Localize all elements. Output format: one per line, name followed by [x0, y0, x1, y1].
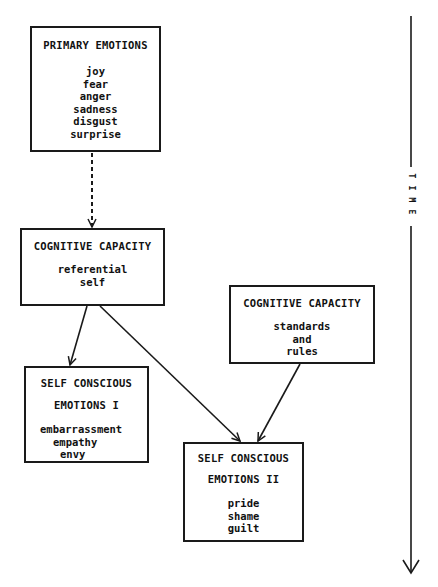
emotion-development-diagram: PRIMARY EMOTIONS joy fear anger sadness … [0, 0, 438, 587]
emotion-item: guilt [185, 522, 302, 535]
primary-emotions-box: PRIMARY EMOTIONS joy fear anger sadness … [30, 26, 161, 152]
capacity-item: and [231, 333, 373, 346]
self-conscious-title-line2: EMOTIONS II [185, 473, 302, 486]
emotion-item: shame [185, 510, 302, 523]
cognitive-capacity-list: standards and rules [231, 320, 373, 358]
arrow-cognitive-to-self-conscious-1 [70, 306, 87, 365]
cognitive-capacity-list: referential self [22, 263, 163, 288]
capacity-item: rules [231, 345, 373, 358]
emotion-item: pride [185, 497, 302, 510]
primary-emotions-title: PRIMARY EMOTIONS [32, 39, 159, 52]
self-conscious-emotions-1-box: SELF CONSCIOUS EMOTIONS I embarrassment … [24, 366, 149, 463]
cognitive-capacity-standards-box: COGNITIVE CAPACITY standards and rules [229, 285, 375, 364]
capacity-item: referential [22, 263, 163, 276]
emotion-item: sadness [32, 103, 159, 116]
emotion-item: joy [32, 65, 159, 78]
emotion-item: fear [32, 78, 159, 91]
cognitive-capacity-title: COGNITIVE CAPACITY [231, 297, 373, 310]
time-letter: E [405, 205, 417, 219]
capacity-item: standards [231, 320, 373, 333]
self-conscious-2-list: pride shame guilt [185, 497, 302, 535]
self-conscious-emotions-2-box: SELF CONSCIOUS EMOTIONS II pride shame g… [183, 442, 304, 542]
emotion-item: disgust [32, 115, 159, 128]
time-axis-label: T I M E [404, 170, 418, 224]
self-conscious-title-line1: SELF CONSCIOUS [185, 452, 302, 465]
emotion-item: surprise [32, 128, 159, 141]
cognitive-capacity-title: COGNITIVE CAPACITY [22, 240, 163, 253]
primary-emotions-list: joy fear anger sadness disgust surprise [32, 65, 159, 140]
self-conscious-title-line1: SELF CONSCIOUS [26, 377, 147, 390]
self-conscious-title-line2: EMOTIONS I [26, 399, 147, 412]
emotion-item: embarrassment [40, 423, 147, 436]
emotion-item: envy [40, 448, 147, 461]
capacity-item: self [22, 276, 163, 289]
emotion-item: anger [32, 90, 159, 103]
emotion-item: empathy [40, 436, 147, 449]
arrow-standards-to-self-conscious-2 [258, 364, 300, 441]
cognitive-capacity-referential-box: COGNITIVE CAPACITY referential self [20, 228, 165, 306]
self-conscious-1-list: embarrassment empathy envy [26, 423, 147, 461]
